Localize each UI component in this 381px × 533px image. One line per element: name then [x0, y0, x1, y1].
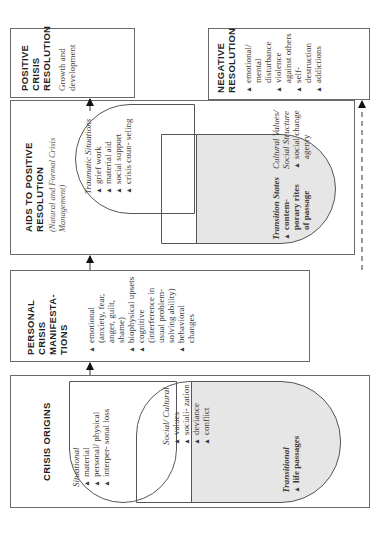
crisis-paradigm-diagram: CRISIS ORIGINS Situational ▲material ▲pe…: [0, 0, 381, 533]
connector-arrows: [0, 0, 381, 533]
